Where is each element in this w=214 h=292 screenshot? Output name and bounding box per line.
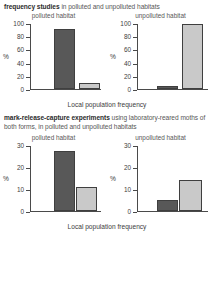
y-axis-label: %	[110, 175, 116, 182]
y-tick-label: 100	[109, 21, 131, 27]
y-tick-mark	[26, 190, 30, 191]
caption-lead-text: mark-release-capture experiments	[4, 114, 110, 121]
bar-group	[31, 24, 101, 89]
bar-group	[138, 24, 208, 89]
bar-melanic	[157, 200, 178, 211]
bar-typical	[179, 180, 202, 211]
y-tick-label: 10	[109, 187, 131, 193]
x-axis-line	[137, 89, 208, 90]
chart-unpolluted-habitat-frequency: unpolluted habitat 100 80 60 40 20 0 %	[107, 11, 214, 100]
y-tick-mark	[133, 212, 137, 213]
y-tick-label: 20	[109, 165, 131, 171]
y-tick-label: 30	[2, 143, 24, 149]
y-tick-label: 20	[2, 165, 24, 171]
y-tick-mark	[26, 146, 30, 147]
bar-typical	[182, 24, 203, 89]
y-tick-mark	[133, 190, 137, 191]
bar-typical	[79, 83, 100, 90]
bar-melanic	[157, 86, 178, 89]
caption-rest-text: in polluted and unpolluted habitats	[60, 3, 160, 10]
plot-area: 100 80 60 40 20 0 %	[0, 20, 107, 100]
chart-title: polluted habitat	[0, 11, 107, 20]
y-tick-mark	[26, 90, 30, 91]
chart-row-mark-release-capture: polluted habitat 30 20 10 0 %	[0, 133, 214, 222]
y-tick-mark	[26, 168, 30, 169]
bar-melanic	[54, 151, 75, 212]
y-tick-label: 40	[109, 61, 131, 67]
y-tick-label: 0	[109, 87, 131, 93]
chart-unpolluted-habitat-mrc: unpolluted habitat 30 20 10 0 %	[107, 133, 214, 222]
y-tick-label: 0	[2, 87, 24, 93]
bar-group	[138, 146, 208, 211]
plot-area: 100 80 60 40 20 0 %	[107, 20, 214, 100]
x-axis-label-bottom: Local population frequency	[0, 222, 214, 232]
y-tick-mark	[133, 168, 137, 169]
y-tick-mark	[133, 77, 137, 78]
chart-title: unpolluted habitat	[107, 133, 214, 142]
y-tick-mark	[26, 212, 30, 213]
chart-row-frequency-studies: polluted habitat 100 80 60 40 20 0 %	[0, 11, 214, 100]
bar-typical	[76, 187, 97, 211]
y-tick-mark	[26, 77, 30, 78]
caption-frequency-studies: frequency studies in polluted and unpoll…	[0, 0, 214, 11]
y-axis-label: %	[3, 53, 9, 60]
y-tick-label: 80	[2, 34, 24, 40]
y-tick-mark	[26, 24, 30, 25]
y-tick-label: 40	[2, 61, 24, 67]
x-axis-line	[30, 89, 101, 90]
caption-mark-release-capture: mark-release-capture experiments using l…	[0, 114, 214, 131]
plot-area: 30 20 10 0 %	[0, 142, 107, 222]
figure-container: frequency studies in polluted and unpoll…	[0, 0, 214, 292]
y-tick-mark	[133, 50, 137, 51]
y-tick-mark	[133, 90, 137, 91]
y-tick-label: 30	[109, 143, 131, 149]
chart-title: unpolluted habitat	[107, 11, 214, 20]
y-tick-label: 20	[109, 74, 131, 80]
y-axis-label: %	[3, 175, 9, 182]
x-axis-label-top: Local population frequency	[0, 100, 214, 110]
chart-polluted-habitat-mrc: polluted habitat 30 20 10 0 %	[0, 133, 107, 222]
chart-polluted-habitat-frequency: polluted habitat 100 80 60 40 20 0 %	[0, 11, 107, 100]
y-tick-mark	[26, 50, 30, 51]
y-tick-mark	[133, 64, 137, 65]
y-tick-mark	[26, 37, 30, 38]
bar-melanic	[54, 29, 75, 89]
y-tick-label: 0	[2, 209, 24, 215]
y-tick-mark	[133, 146, 137, 147]
x-axis-line	[137, 211, 208, 212]
caption-lead-text: frequency studies	[4, 3, 60, 10]
y-tick-label: 100	[2, 21, 24, 27]
y-tick-mark	[133, 24, 137, 25]
y-tick-label: 0	[109, 209, 131, 215]
y-tick-label: 20	[2, 74, 24, 80]
y-axis-label: %	[110, 53, 116, 60]
y-tick-mark	[133, 37, 137, 38]
x-axis-line	[30, 211, 101, 212]
y-tick-label: 10	[2, 187, 24, 193]
chart-title: polluted habitat	[0, 133, 107, 142]
y-tick-mark	[26, 64, 30, 65]
bar-group	[31, 146, 101, 211]
y-tick-label: 80	[109, 34, 131, 40]
plot-area: 30 20 10 0 %	[107, 142, 214, 222]
